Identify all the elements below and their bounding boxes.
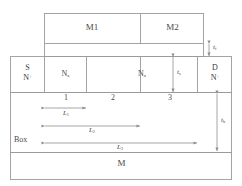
source-region-label: S N+ [11, 63, 44, 83]
dimension-ts-label: ts [177, 69, 181, 77]
gate-m2-label: M2 [141, 23, 204, 32]
drain-terminal-label: D [198, 63, 232, 73]
device-cross-section-figure: M1 M2 S N+ D N+ Na Na 1 2 3 Box M L1 L2 … [0, 0, 242, 186]
channel-left-label: Na [45, 70, 86, 78]
region-number-2: 2 [98, 94, 128, 102]
dimension-l3-label: L3 [100, 144, 140, 152]
dimension-tf-label: tf [213, 44, 216, 52]
gate-m1-label: M1 [44, 23, 140, 32]
box-layer-label: Box [14, 136, 27, 144]
source-doping-label: N+ [11, 73, 44, 83]
drain-doping-label: N+ [198, 73, 232, 83]
region-number-1: 1 [51, 94, 81, 102]
dimension-l2-label: L2 [72, 127, 112, 135]
dimension-tb-label: tb [221, 117, 225, 125]
region-number-3: 3 [155, 94, 185, 102]
drain-region-label: D N+ [198, 63, 232, 83]
back-metal-label: M [11, 159, 232, 168]
source-terminal-label: S [11, 63, 44, 73]
dimension-l1-label: L1 [46, 110, 86, 118]
